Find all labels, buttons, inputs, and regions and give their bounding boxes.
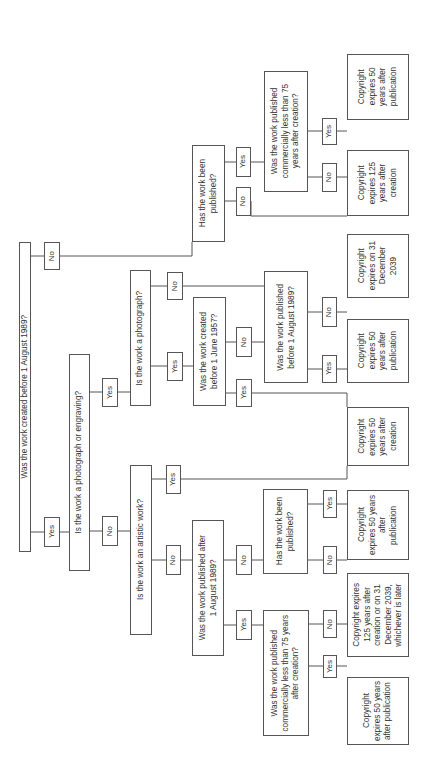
- answer-box-a-dec-2039: Copyright expires on 31 December 2039: [347, 234, 409, 298]
- question-box-q-has-been-published-2: Has the work been published?: [263, 489, 308, 574]
- branch-label-l-root-no: No: [44, 242, 60, 270]
- node-text: Yes: [325, 660, 336, 673]
- node-text: Is the work an artistic work?: [136, 499, 147, 600]
- branch-label-l-ph-no: No: [167, 272, 183, 300]
- node-text: Yes: [325, 497, 336, 510]
- node-text: Copyright expires 50 years after publica…: [357, 495, 399, 555]
- node-text: No: [238, 196, 249, 206]
- node-text: Copyright expires on 31 December 2039: [357, 241, 399, 290]
- node-text: Copyright expires 125 years after creati…: [352, 583, 405, 647]
- connector-line: [181, 466, 347, 479]
- question-box-q-has-been-published-1: Has the work been published?: [192, 145, 225, 242]
- node-text: Was the work published commercially less…: [270, 615, 302, 732]
- node-text: Yes: [47, 525, 58, 538]
- question-box-q-artistic: Is the work an artistic work?: [130, 465, 152, 635]
- node-text: Yes: [168, 473, 179, 486]
- node-text: Copyright expires 50 years after publica…: [362, 681, 394, 741]
- node-text: Was the work created before 1 June 1957?: [199, 312, 220, 391]
- branch-label-l-root-yes: Yes: [44, 517, 60, 547]
- node-text: Yes: [105, 386, 116, 399]
- node-text: Copyright expires 50 years after publica…: [357, 67, 399, 106]
- node-text: No: [239, 337, 250, 347]
- node-text: Yes: [324, 125, 335, 138]
- node-text: Yes: [239, 618, 250, 631]
- question-box-q-published-after-1989: Was the work published after 1 August 19…: [192, 520, 224, 656]
- question-box-q-photograph: Is the work a photograph?: [130, 270, 151, 406]
- question-box-q-commercial-75-1: Was the work published commercially less…: [264, 71, 308, 192]
- connector-line: [251, 201, 347, 216]
- node-text: Has the work been published?: [198, 159, 219, 227]
- node-text: No: [239, 555, 250, 565]
- answer-box-a-50-pub-4: Copyright expires 50 years after publica…: [347, 54, 409, 120]
- node-text: Copyright expires 125 years after creati…: [357, 162, 399, 204]
- branch-label-l-c1-no: No: [322, 163, 337, 192]
- branch-label-l-art-yes: Yes: [166, 465, 181, 494]
- node-text: Yes: [239, 386, 250, 399]
- question-box-q-commercial-75-2: Was the work published commercially less…: [263, 610, 309, 736]
- node-text: Copyright expires 50 years after publica…: [357, 331, 399, 370]
- answer-box-a-50-pub-3: Copyright expires 50 years after publica…: [347, 677, 409, 745]
- node-text: Was the work created before 1 August 198…: [20, 315, 31, 479]
- branch-label-l-pe-no: No: [102, 516, 118, 546]
- node-text: Was the work published commercially less…: [270, 84, 302, 178]
- node-text: Yes: [324, 362, 335, 375]
- branch-label-l-pe-yes: Yes: [102, 378, 118, 407]
- node-text: Is the work a photograph or engraving?: [74, 391, 85, 533]
- node-text: Was the work published before 1 August 1…: [276, 284, 297, 371]
- question-box-q-created-before-1957: Was the work created before 1 June 1957?: [193, 297, 226, 406]
- node-text: Yes: [238, 155, 249, 168]
- branch-label-l-pb-no: No: [322, 297, 337, 327]
- question-box-q-published-before-1989: Was the work published before 1 August 1…: [264, 271, 308, 383]
- answer-box-a-125-or-2039: Copyright expires 125 years after creati…: [347, 573, 409, 657]
- branch-label-l-pb-yes: Yes: [322, 355, 337, 383]
- branch-label-l-art-no: No: [166, 545, 181, 575]
- node-text: No: [324, 307, 335, 317]
- branch-label-l-hp2-no: No: [323, 546, 337, 574]
- branch-label-l-57-no: No: [236, 327, 252, 357]
- answer-box-a-125-creation: Copyright expires 125 years after creati…: [347, 150, 409, 216]
- node-text: No: [105, 526, 116, 536]
- question-box-q-created-before-1989: Was the work created before 1 August 198…: [19, 242, 31, 552]
- question-box-q-photo-or-engraving: Is the work a photograph or engraving?: [69, 354, 90, 571]
- node-text: No: [325, 619, 336, 629]
- node-text: Is the work a photograph?: [135, 291, 146, 386]
- answer-box-a-50-pub-2: Copyright expires 50 years after publica…: [347, 490, 409, 560]
- node-text: No: [325, 555, 336, 565]
- node-text: Copyright expires 50 years after creatio…: [357, 417, 399, 456]
- branch-label-l-pa-no: No: [236, 545, 252, 575]
- node-text: Has the work been published?: [275, 497, 296, 565]
- branch-label-l-hp2-yes: Yes: [323, 490, 337, 518]
- connector-line: [252, 393, 347, 407]
- branch-label-l-c1-yes: Yes: [322, 118, 337, 145]
- answer-box-a-50-pub-1: Copyright expires 50 years after publica…: [347, 319, 409, 383]
- node-text: No: [170, 281, 181, 291]
- node-text: No: [47, 251, 58, 261]
- node-text: No: [324, 172, 335, 182]
- node-text: Yes: [170, 360, 181, 373]
- branch-label-l-c2-yes: Yes: [323, 655, 337, 678]
- connector-line: [60, 242, 192, 256]
- node-text: Was the work published after 1 August 19…: [198, 535, 219, 640]
- branch-label-l-hp1-yes: Yes: [236, 147, 251, 177]
- branch-label-l-hp1-no: No: [236, 187, 251, 216]
- branch-label-l-c2-no: No: [323, 610, 337, 638]
- branch-label-l-pa-yes: Yes: [236, 610, 252, 640]
- node-text: No: [168, 555, 179, 565]
- answer-box-a-50-creation: Copyright expires 50 years after creatio…: [347, 407, 409, 466]
- branch-label-l-ph-yes: Yes: [167, 352, 183, 381]
- branch-label-l-57-yes: Yes: [236, 379, 252, 407]
